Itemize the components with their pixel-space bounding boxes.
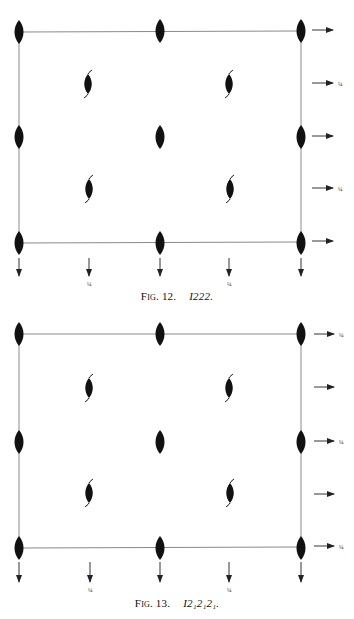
height-labels: ¼ ¼ ¼ ¼ bbox=[87, 81, 343, 287]
figure-label: Fig. 12. bbox=[141, 290, 176, 302]
space-group-symbol: I222. bbox=[189, 290, 213, 302]
svg-text:¼: ¼ bbox=[339, 332, 344, 338]
twofold-axis-icons bbox=[15, 19, 306, 255]
space-group-symbol: I2₁2₁2₁. bbox=[183, 597, 219, 609]
svg-text:¼: ¼ bbox=[88, 587, 93, 593]
svg-text:¼: ¼ bbox=[338, 81, 343, 87]
figure-label: Fig. 13. bbox=[135, 597, 170, 609]
bottom-axis-arrows bbox=[19, 258, 301, 276]
figure-12-caption: Fig. 12. I222. bbox=[0, 290, 354, 302]
svg-text:¼: ¼ bbox=[339, 439, 344, 445]
twofold-axis-icons bbox=[15, 322, 306, 560]
right-axis-arrows bbox=[314, 334, 334, 546]
svg-text:¼: ¼ bbox=[227, 281, 232, 287]
figure-12-diagram: ¼ ¼ ¼ ¼ bbox=[15, 19, 344, 287]
right-axis-arrows bbox=[312, 30, 333, 241]
svg-text:¼: ¼ bbox=[227, 587, 232, 593]
height-labels: ¼ ¼ ¼ ¼ ¼ bbox=[88, 332, 344, 593]
figure-13-caption: Fig. 13. I2₁2₁2₁. bbox=[0, 597, 354, 609]
figure-13-diagram: ¼ ¼ ¼ ¼ ¼ bbox=[15, 322, 345, 593]
svg-text:¼: ¼ bbox=[339, 544, 344, 550]
svg-text:¼: ¼ bbox=[87, 281, 92, 287]
bottom-axis-arrows bbox=[19, 562, 301, 582]
symmetry-diagrams: ¼ ¼ ¼ ¼ bbox=[0, 0, 354, 619]
svg-text:¼: ¼ bbox=[338, 186, 343, 192]
